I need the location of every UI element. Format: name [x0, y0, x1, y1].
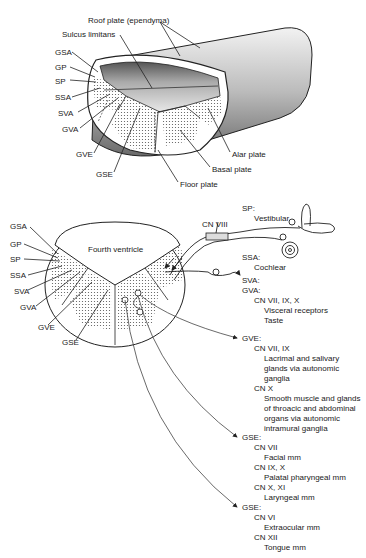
label-sp-top: SP [55, 77, 66, 86]
gse-nerve: CN XII [242, 533, 320, 543]
sva-gva-item: Taste [242, 316, 328, 326]
gse-block-2: GSE: CN VI Extraocular mm CN XII Tongue … [242, 503, 320, 553]
label-gva-top: GVA [62, 125, 78, 134]
gse-block-1: GSE: CN VII Facial mm CN IX, X Palatal p… [242, 433, 346, 503]
ssa-item: Cochlear [242, 263, 286, 273]
gse-heading: GSE: [242, 503, 320, 513]
gve-nerve-1-line: glands via autonomic [242, 364, 361, 374]
ssa-cochlear-block: SSA: Cochlear [242, 253, 286, 273]
gse-nerve: CN X, XI [242, 483, 346, 493]
sva-gva-block: SVA: GVA: CN VII, IX, X Visceral recepto… [242, 276, 328, 326]
gva-heading: GVA: [242, 286, 328, 296]
ssa-heading: SSA: [242, 253, 286, 263]
sp-vestibular-block: SP: Vestibular [242, 204, 289, 224]
label-fourth-ventricle: Fourth ventricle [88, 245, 143, 254]
label-roof-plate: Roof plate (ependyma) [88, 16, 169, 25]
sp-heading: SP: [242, 204, 289, 214]
label-gve-top: GVE [76, 150, 93, 159]
label-gse-top: GSE [96, 170, 113, 179]
gve-nerve-2-line: of throacic and abdominal [242, 404, 361, 414]
label-ssa-top: SSA [55, 93, 71, 102]
gve-nerve-1-line: ganglia [242, 374, 361, 384]
gse-nerve: CN IX, X [242, 463, 346, 473]
label-gse-bottom: GSE [62, 338, 79, 347]
neural-tube-illustration [88, 28, 312, 156]
label-floor-plate: Floor plate [180, 180, 218, 189]
sva-gva-item: Visceral receptors [242, 306, 328, 316]
gve-nerve-1-line: Lacrimal and salivary [242, 354, 361, 364]
label-basal-plate: Basal plate [212, 165, 252, 174]
label-alar-plate: Alar plate [232, 150, 266, 159]
gse-item: Palatal pharyngeal mm [242, 473, 346, 483]
gve-nerve-2-line: organs via autonomic [242, 414, 361, 424]
label-gsa-top: GSA [55, 48, 72, 57]
label-sva-bottom: SVA [14, 287, 29, 296]
label-gp-bottom: GP [10, 240, 22, 249]
sp-item: Vestibular [242, 214, 289, 224]
gse-item: Extraocular mm [242, 523, 320, 533]
gse-nerve: CN VI [242, 513, 320, 523]
label-cn-viii: CN VIII [202, 220, 228, 229]
label-gva-bottom: GVA [20, 303, 36, 312]
sva-heading: SVA: [242, 276, 328, 286]
gse-item: Facial mm [242, 453, 346, 463]
gse-heading: GSE: [242, 433, 346, 443]
gve-heading: GVE: [242, 334, 361, 344]
label-sva-top: SVA [58, 109, 73, 118]
label-sp-bottom: SP [10, 255, 21, 264]
gve-nerve-1: CN VII, IX [242, 344, 361, 354]
label-sulcus-limitans: Sulcus limitans [62, 30, 115, 39]
gse-nerve: CN VII [242, 443, 346, 453]
label-gsa-bottom: GSA [10, 222, 27, 231]
sva-gva-nerve: CN VII, IX, X [242, 296, 328, 306]
label-gve-bottom: GVE [38, 323, 55, 332]
medulla-cross-section [45, 222, 185, 347]
label-gp-top: GP [55, 63, 67, 72]
gse-item: Laryngeal mm [242, 493, 346, 503]
gve-block: GVE: CN VII, IX Lacrimal and salivary gl… [242, 334, 361, 434]
label-ssa-bottom: SSA [10, 271, 26, 280]
gse-item: Tongue mm [242, 543, 320, 553]
gve-nerve-2-line: Smooth muscle and glands [242, 394, 361, 404]
gve-nerve-2: CN X [242, 384, 361, 394]
